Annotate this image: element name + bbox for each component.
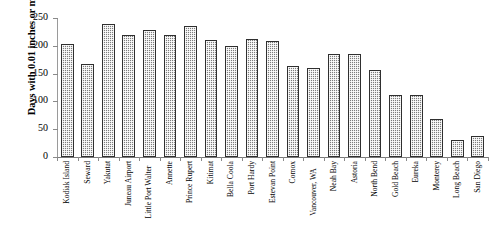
y-axis-tick-label: 50 (18, 122, 48, 133)
bar (122, 35, 135, 157)
bar (143, 30, 156, 157)
bar (451, 140, 464, 157)
y-axis-tick: 50 (53, 129, 58, 130)
y-axis-tick: 250 (53, 18, 58, 19)
bar (287, 66, 300, 157)
x-axis-tick (406, 157, 407, 161)
y-axis-tick: 200 (53, 46, 58, 47)
x-axis-category-label: Monterey (433, 161, 441, 191)
bar (410, 95, 423, 157)
x-axis-category-label: Seward (84, 161, 92, 184)
bar (348, 54, 361, 157)
x-axis-category: Eureka (409, 161, 423, 227)
x-axis-category-label: Astoria (351, 161, 359, 183)
x-axis-tick (303, 157, 304, 161)
bar (246, 39, 259, 157)
x-axis-category: Yakutat (101, 161, 115, 227)
x-axis-tick (283, 157, 284, 161)
x-axis-category: Monterey (430, 161, 444, 227)
y-axis-tick-label: 0 (18, 150, 48, 161)
bar (430, 119, 443, 157)
bar (471, 136, 484, 157)
x-axis-category: Prince Rupert (183, 161, 197, 227)
x-axis-category-label: Prince Rupert (186, 161, 194, 203)
bar (369, 70, 382, 157)
x-axis-category: Port Hardy (245, 161, 259, 227)
x-axis-category-label: San Diego (474, 161, 482, 193)
x-axis-tick (139, 157, 140, 161)
bar (205, 40, 218, 157)
x-axis-category-label: Eureka (412, 161, 420, 183)
x-axis-tick (385, 157, 386, 161)
bar (102, 24, 115, 157)
x-axis-category-label: Neah Bay (330, 161, 338, 191)
x-axis-category: Astoria (348, 161, 362, 227)
x-axis-category-label: Port Hardy (248, 161, 256, 195)
x-axis-category: Estevan Point (266, 161, 280, 227)
bar (61, 44, 74, 157)
x-axis-tick (324, 157, 325, 161)
y-axis-tick: 100 (53, 101, 58, 102)
x-axis-category: Kodiak Island (60, 161, 74, 227)
y-axis-tick-label: 150 (18, 67, 48, 78)
x-axis-tick (98, 157, 99, 161)
x-axis-tick (221, 157, 222, 161)
x-axis-category-label: Vancouver, WA (310, 161, 318, 223)
x-axis-category: Seward (81, 161, 95, 227)
x-axis-category-label: Kodiak Island (63, 161, 71, 204)
bar (184, 26, 197, 157)
x-axis-tick (119, 157, 120, 161)
y-axis-tick: 150 (53, 74, 58, 75)
bar (389, 95, 402, 157)
x-axis-tick (426, 157, 427, 161)
x-axis-category: Annette (163, 161, 177, 227)
x-axis-tick (201, 157, 202, 161)
x-axis-category: Vancouver, WA (307, 161, 321, 227)
x-axis-category: Kitimat (204, 161, 218, 227)
y-axis-tick-label: 250 (18, 11, 48, 22)
x-axis-tick (488, 157, 489, 161)
x-axis-category: San Diego (471, 161, 485, 227)
bar-chart: Days with 0.01 inches or more 2502001501… (0, 0, 498, 230)
x-axis-category: North Bend (368, 161, 382, 227)
x-axis-category: Juneau Airport (122, 161, 136, 227)
x-axis-category: Long Beach (450, 161, 464, 227)
x-axis-category-label: Long Beach (453, 161, 461, 198)
bar (266, 41, 279, 157)
x-axis-category: Comox (286, 161, 300, 227)
x-axis-category: Little Port Walter (142, 161, 156, 227)
x-axis-tick (57, 157, 58, 161)
x-axis-tick (78, 157, 79, 161)
x-axis-tick (262, 157, 263, 161)
x-axis-category-label: Bella Coola (227, 161, 235, 197)
x-axis-category-label: Estevan Point (269, 161, 277, 203)
bar (81, 64, 94, 157)
bar (307, 68, 320, 157)
x-axis-category-label: Juneau Airport (125, 161, 133, 206)
x-axis-category: Neah Bay (327, 161, 341, 227)
x-axis-category: Bella Coola (224, 161, 238, 227)
y-axis-tick-label: 100 (18, 94, 48, 105)
x-axis-category-label: North Bend (371, 161, 379, 197)
x-axis-tick (242, 157, 243, 161)
x-axis-category-label: Annette (166, 161, 174, 185)
bar (328, 54, 341, 157)
x-axis-tick (365, 157, 366, 161)
y-axis-line (57, 18, 58, 157)
x-axis-tick (160, 157, 161, 161)
x-axis-tick (344, 157, 345, 161)
x-axis-category-label: Kitimat (207, 161, 215, 184)
bar (225, 46, 238, 157)
y-axis-tick-label: 200 (18, 39, 48, 50)
plot-area: 250200150100500 (57, 18, 488, 157)
x-axis-tick (180, 157, 181, 161)
x-axis-tick (447, 157, 448, 161)
x-axis-category-label: Comox (289, 161, 297, 183)
x-axis-category: Gold Beach (389, 161, 403, 227)
x-axis-tick (467, 157, 468, 161)
x-axis-category-label: Yakutat (104, 161, 112, 184)
bar (164, 35, 177, 157)
x-axis-category-label: Little Port Walter (145, 161, 153, 223)
x-axis-line (57, 157, 488, 158)
x-axis-category-label: Gold Beach (392, 161, 400, 197)
